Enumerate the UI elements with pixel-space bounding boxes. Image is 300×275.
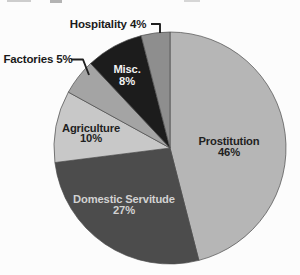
scan-artifacts (7, 0, 200, 3)
pie-chart: Prostitution46%Domestic Servitude27%Agri… (0, 0, 300, 275)
slice-label-hospitality: Hospitality 4% (70, 18, 147, 30)
leader-line-hospitality (151, 24, 160, 33)
scan-artifact-mark (50, 0, 62, 3)
slice-label-misc: Misc. (113, 63, 140, 75)
slice-label-misc-value: 8% (119, 75, 135, 87)
slice-label-prostitution-value: 46% (218, 146, 240, 158)
pie-slices (54, 32, 286, 264)
pie-chart-figure: Prostitution46%Domestic Servitude27%Agri… (0, 0, 300, 275)
slice-label-factories: Factories 5% (3, 53, 72, 65)
slice-label-agriculture-value: 10% (80, 132, 102, 144)
slice-label-domestic-servitude-value: 27% (113, 204, 135, 216)
scan-artifact-mark (7, 0, 31, 2)
scan-artifact-mark (184, 0, 200, 2)
